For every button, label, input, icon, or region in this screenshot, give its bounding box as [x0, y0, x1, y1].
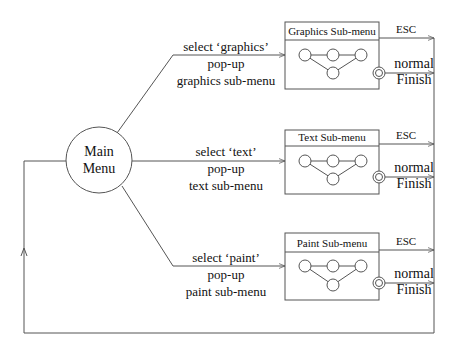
submenu-paint-esc: ESC	[396, 235, 416, 247]
transition-paint-line2: pop-up	[208, 267, 245, 282]
main-menu-label-2: Menu	[83, 161, 116, 176]
transition-text: select ‘text’ pop-up text sub-menu	[132, 144, 285, 193]
transition-graphics-line2: pop-up	[208, 56, 245, 71]
transition-text-line2: pop-up	[208, 161, 245, 176]
submenu-graphics-finish-1: normal	[394, 56, 434, 71]
submenu-text-esc: ESC	[396, 129, 416, 141]
transition-paint: select ‘paint’ pop-up paint sub-menu	[122, 186, 285, 299]
transition-text-line3: text sub-menu	[189, 178, 264, 193]
submenu-paint-finish-2: Finish	[396, 282, 431, 297]
final-state-icon	[373, 67, 385, 79]
final-state-icon	[373, 277, 385, 289]
submenu-text: Text Sub-menu ESC normal Finish	[285, 129, 434, 194]
transition-graphics-line1: select ‘graphics’	[183, 39, 269, 54]
submenu-paint: Paint Sub-menu ESC normal Finish	[285, 233, 434, 300]
main-menu-label-1: Main	[84, 144, 114, 159]
submenu-graphics: Graphics Sub-menu ESC normal Finish	[285, 22, 434, 89]
transition-paint-line1: select ‘paint’	[192, 250, 260, 265]
submenu-text-title: Text Sub-menu	[298, 131, 366, 143]
transition-graphics: select ‘graphics’ pop-up graphics sub-me…	[117, 39, 285, 133]
submenu-graphics-esc: ESC	[396, 23, 416, 35]
submenu-text-finish-1: normal	[394, 160, 434, 175]
final-state-icon	[373, 171, 385, 183]
submenu-graphics-finish-2: Finish	[396, 72, 431, 87]
submenu-paint-finish-1: normal	[394, 266, 434, 281]
transition-graphics-line3: graphics sub-menu	[177, 73, 276, 88]
main-menu-node: Main Menu	[66, 127, 132, 193]
transition-text-line1: select ‘text’	[196, 144, 257, 159]
state-diagram: Main Menu select ‘graphics’ pop-up graph…	[0, 0, 456, 352]
transition-paint-line3: paint sub-menu	[186, 284, 267, 299]
submenu-graphics-title: Graphics Sub-menu	[288, 25, 376, 37]
submenu-text-finish-2: Finish	[396, 176, 431, 191]
submenu-paint-title: Paint Sub-menu	[297, 237, 368, 249]
